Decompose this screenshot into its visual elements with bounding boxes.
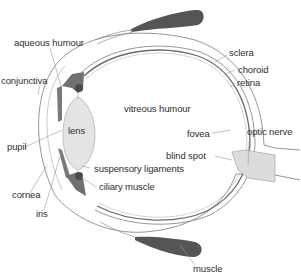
label-retina: retina — [237, 77, 260, 88]
label-optic-nerve: optic nerve — [247, 126, 292, 137]
label-muscle: muscle — [193, 263, 223, 274]
label-lens: lens — [68, 125, 85, 136]
top-muscle — [95, 10, 204, 44]
label-sclera: sclera — [229, 47, 254, 58]
label-conjunctiva: conjunctiva — [1, 75, 47, 86]
label-vitreous-humour: vitreous humour — [124, 103, 191, 114]
label-cornea: cornea — [12, 189, 40, 200]
label-ciliary-muscle: ciliary muscle — [99, 181, 155, 192]
label-fovea: fovea — [187, 128, 210, 139]
choroid-layer — [82, 46, 255, 224]
label-aqueous-humour: aqueous humour — [14, 37, 84, 48]
optic-nerve-shape — [232, 150, 275, 182]
label-suspensory-ligaments: suspensory ligaments — [94, 163, 184, 174]
iris-upper — [57, 86, 62, 122]
label-pupil: pupil — [7, 141, 27, 152]
bottom-muscle — [100, 222, 202, 257]
label-choroid: choroid — [238, 64, 268, 75]
label-blind-spot: blind spot — [166, 150, 206, 161]
label-iris: iris — [36, 208, 48, 219]
